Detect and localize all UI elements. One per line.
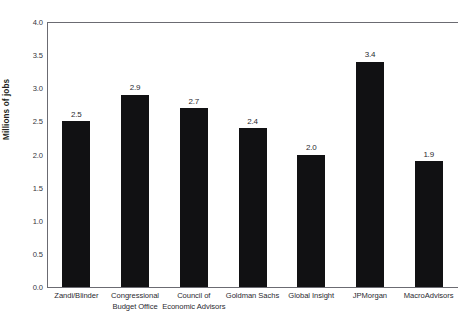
bar[interactable] — [180, 108, 208, 287]
bar[interactable] — [415, 161, 443, 287]
y-axis-tick-label: 4.0 — [33, 18, 43, 27]
bar-value-label: 2.5 — [48, 110, 104, 119]
bar-value-label: 1.9 — [401, 150, 457, 159]
bar[interactable] — [356, 62, 384, 287]
bar[interactable] — [62, 121, 90, 287]
bar-group: 2.0 — [283, 22, 339, 287]
x-axis-category-label-line: Economic Advisors — [159, 302, 229, 313]
bar-value-label: 2.4 — [225, 117, 281, 126]
bar-value-label: 3.4 — [342, 50, 398, 59]
bar-value-label: 2.0 — [283, 143, 339, 152]
x-axis-category-label: MacroAdvisors — [394, 291, 464, 302]
y-axis-tick-label: 2.5 — [33, 117, 43, 126]
bars-layer: 2.52.92.72.42.03.41.9 — [47, 22, 458, 287]
x-axis-category-labels: Zandi/BlinderCongressionalBudget OfficeC… — [47, 291, 458, 318]
bar-group: 2.7 — [166, 22, 222, 287]
y-axis-tick-label: 1.0 — [33, 216, 43, 225]
x-axis-category-label-line: MacroAdvisors — [394, 291, 464, 302]
bar-value-label: 2.9 — [107, 83, 163, 92]
bar[interactable] — [297, 155, 325, 288]
y-axis-tick-labels: 4.03.53.02.52.01.51.00.50.0 — [0, 0, 47, 318]
bar-group: 3.4 — [342, 22, 398, 287]
y-axis-tick-label: 3.0 — [33, 84, 43, 93]
y-axis-tick-label: 1.5 — [33, 183, 43, 192]
bar-value-label: 2.7 — [166, 97, 222, 106]
y-axis-tick-label: 3.5 — [33, 51, 43, 60]
bar-group: 2.9 — [107, 22, 163, 287]
x-axis-baseline — [47, 287, 458, 288]
bar[interactable] — [239, 128, 267, 287]
y-axis-tick-label: 0.5 — [33, 249, 43, 258]
bar-chart: Millions of jobs 4.03.53.02.52.01.51.00.… — [0, 0, 466, 318]
y-axis-tick-label: 2.0 — [33, 150, 43, 159]
bar-group: 1.9 — [401, 22, 457, 287]
bar-group: 2.4 — [225, 22, 281, 287]
bar-group: 2.5 — [48, 22, 104, 287]
bar[interactable] — [121, 95, 149, 287]
